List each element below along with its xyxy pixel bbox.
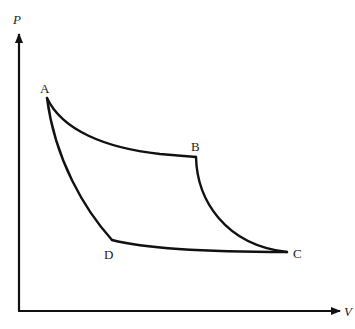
point-label-b: B [191,139,200,154]
point-label-c: C [293,246,302,261]
point-label-a: A [40,81,50,96]
point-label-d: D [104,247,113,262]
cycle [47,98,287,252]
axes: P V [12,12,354,319]
point-labels: A B C D [40,81,302,262]
path-d-a [47,98,112,240]
pv-diagram: P V A B C D [0,0,355,329]
path-b-c [196,157,287,252]
path-a-b [47,98,196,157]
y-axis-label: P [12,12,21,27]
x-axis-label: V [344,304,354,319]
